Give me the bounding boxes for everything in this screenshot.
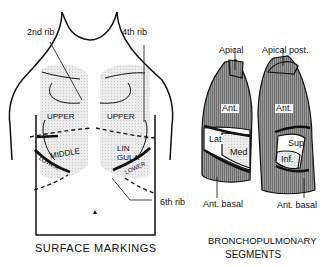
- label-anterior-basal-left: Ant. basal: [277, 201, 317, 210]
- label-superior: Sup: [288, 139, 304, 148]
- label-upper-right-lobe: UPPER: [47, 113, 75, 121]
- label-lateral: Lat: [208, 135, 223, 144]
- label-inferior: Inf.: [281, 155, 294, 164]
- left-lung-segments: [258, 56, 315, 194]
- label-anterior-left: Ant.: [275, 104, 293, 113]
- right-lung-segments: [202, 60, 252, 182]
- label-anterior-basal-right: Ant. basal: [203, 200, 243, 209]
- anatomy-illustration: [0, 0, 324, 267]
- label-anterior-right: Ant.: [221, 104, 239, 113]
- caption-bronchopulmonary-line1: BRONCHOPULMONARY: [208, 235, 317, 246]
- label-4th-rib: 4th rib: [122, 28, 147, 37]
- caption-surface-markings: SURFACE MARKINGS: [35, 242, 157, 254]
- label-apical: Apical: [219, 46, 244, 55]
- label-6th-rib: 6th rib: [160, 198, 185, 207]
- label-medial: Med: [230, 148, 248, 157]
- label-lingula: LIN GULA: [117, 145, 139, 163]
- caption-bronchopulmonary-line2: SEGMENTS: [225, 249, 281, 260]
- label-2nd-rib: 2nd rib: [27, 28, 55, 37]
- label-apical-posterior: Apical post.: [262, 46, 309, 55]
- label-upper-left-lobe: UPPER: [107, 113, 135, 121]
